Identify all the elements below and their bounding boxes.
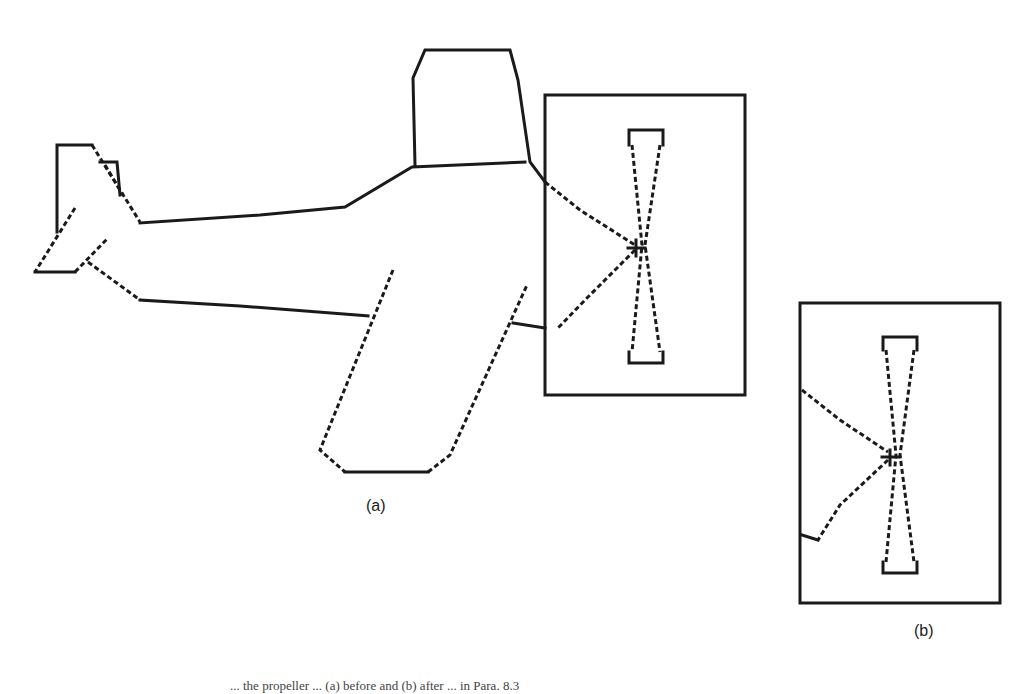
- wing-leading-edge: [320, 270, 393, 472]
- panel-label-a: (a): [366, 497, 386, 515]
- nose-bottom: [558, 250, 635, 328]
- nose-top: [545, 182, 635, 245]
- nose-top-b: [802, 390, 888, 452]
- wing-trailing-edge: [428, 285, 527, 472]
- stabilizer-edge: [35, 208, 75, 272]
- tail-fin: [57, 145, 92, 232]
- stabilizer-trailing: [75, 238, 108, 272]
- figure-caption: ... the propeller ... (a) before and (b)…: [230, 678, 519, 694]
- nose-underside-b: [802, 535, 818, 540]
- panel-label-b: (b): [914, 622, 934, 640]
- propeller-upper-blade-b: [883, 337, 917, 350]
- propeller-window-a: [545, 95, 745, 395]
- fuselage-bottom: [140, 300, 368, 316]
- propeller-lower-blade-a: [629, 352, 663, 363]
- tail-fin-edge: [92, 145, 140, 222]
- propeller-lower-blade-b: [883, 562, 917, 573]
- nose-bottom-b: [818, 460, 888, 540]
- propeller-upper-blade-a: [629, 130, 663, 145]
- fuselage-top: [140, 162, 525, 223]
- propeller-zoom: [800, 303, 1000, 603]
- fuselage-tail-underside: [88, 262, 140, 300]
- propeller-window-b: [800, 303, 1000, 603]
- airplane-outline: [35, 50, 745, 472]
- tail-fin-tab: [100, 162, 120, 195]
- nose-underside: [513, 323, 545, 328]
